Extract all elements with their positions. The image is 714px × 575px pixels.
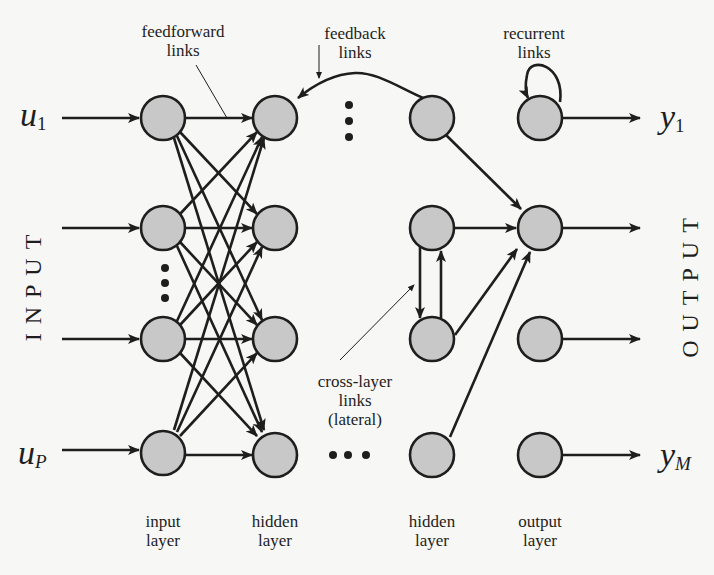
hidden2-layer-label: hidden layer — [397, 512, 467, 550]
input-uP: uP — [18, 436, 47, 479]
output-side-label: OUTPUT — [677, 209, 704, 359]
feedforward-label: feedforward links — [128, 22, 238, 60]
hidden1-node-4 — [253, 433, 297, 477]
output-node-3 — [518, 317, 562, 361]
cross-layer-pointer — [340, 285, 414, 360]
output-y1: y1 — [660, 100, 685, 143]
hidden2-node-4 — [410, 433, 454, 477]
hidden-horizontal-ellipsis — [329, 451, 370, 459]
hidden1-layer-label: hidden layer — [240, 512, 310, 550]
recurrent-label: recurrent links — [484, 24, 584, 62]
network-diagram — [0, 0, 714, 575]
output-node-2 — [518, 206, 562, 250]
feedforward-pointer — [196, 65, 227, 118]
input-node-4 — [141, 431, 185, 475]
feedback-label: feedback links — [310, 24, 400, 62]
output-node-4 — [518, 433, 562, 477]
feedback-link — [298, 73, 423, 98]
hidden1-node-1 — [253, 96, 297, 140]
output-node-1 — [518, 96, 562, 140]
hidden2-node-2 — [410, 206, 454, 250]
input-node-1 — [141, 96, 185, 140]
hidden2-node-3 — [410, 317, 454, 361]
hidden-vertical-ellipsis — [345, 101, 353, 141]
input-side-label: INPUT — [20, 219, 47, 349]
hidden1-node-2 — [253, 206, 297, 250]
hidden1-node-3 — [253, 317, 297, 361]
input-ellipsis — [161, 264, 169, 302]
output-layer-label: output layer — [505, 512, 575, 550]
input-layer-label: input layer — [128, 512, 198, 550]
input-node-3 — [141, 317, 185, 361]
input-u1: u1 — [20, 98, 47, 141]
output-yM: yM — [660, 438, 691, 481]
hidden2-node-1 — [410, 96, 454, 140]
link-h2r1-out2 — [446, 135, 521, 209]
link-h2r3-out2 — [455, 249, 517, 335]
feedforward-links — [174, 118, 264, 455]
cross-layer-label: cross-layer links (lateral) — [300, 372, 410, 429]
input-node-2 — [141, 206, 185, 250]
